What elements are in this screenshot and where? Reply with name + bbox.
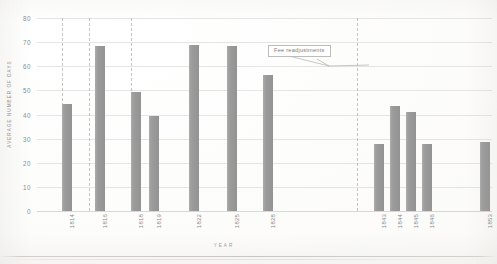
y-axis-title: AVERAGE NUMBER OF DAYS (7, 60, 12, 147)
x-axis-tick-label: 1816 (102, 214, 108, 228)
y-axis-tick-label: 60 (23, 63, 31, 70)
bar[interactable] (131, 92, 141, 211)
bar[interactable] (406, 112, 416, 211)
bar[interactable] (263, 75, 273, 211)
x-axis-tick-label: 1819 (156, 214, 162, 228)
y-axis-tick-label: 0 (27, 208, 31, 215)
page-edge-line (0, 256, 497, 257)
y-gridline (37, 211, 492, 212)
y-axis-tick-label: 70 (23, 39, 31, 46)
bar[interactable] (95, 46, 105, 211)
bar[interactable] (189, 45, 199, 212)
page-edge-line-secondary (0, 259, 497, 260)
x-axis-tick-label: 1844 (397, 214, 403, 228)
x-axis-tick-label: 1828 (270, 214, 276, 228)
chart-page: AVERAGE NUMBER OF DAYS YEAR 010203040506… (0, 0, 497, 264)
y-axis-tick-label: 50 (23, 87, 31, 94)
x-axis-tick-label: 1818 (138, 214, 144, 228)
y-axis-tick-label: 80 (23, 15, 31, 22)
x-axis-tick-label: 1853 (487, 214, 493, 228)
x-axis-tick-label: 1843 (381, 214, 387, 228)
bar[interactable] (227, 46, 237, 211)
x-axis-tick-label: 1822 (196, 214, 202, 228)
annotation-fee-readjustments: Fee readjustments (268, 45, 331, 57)
x-axis-tick-label: 1846 (429, 214, 435, 228)
x-axis-tick-label: 1845 (413, 214, 419, 228)
y-axis-tick-label: 40 (23, 111, 31, 118)
x-axis-title: YEAR (214, 243, 235, 248)
vertical-marker-line (89, 18, 90, 211)
y-axis-tick-label: 30 (23, 135, 31, 142)
bar[interactable] (422, 144, 432, 212)
y-gridline (37, 18, 492, 19)
y-axis-tick-label: 10 (23, 183, 31, 190)
bar[interactable] (390, 106, 400, 211)
y-axis-tick-label: 20 (23, 159, 31, 166)
bar[interactable] (149, 116, 159, 211)
bar[interactable] (62, 104, 72, 211)
bar[interactable] (480, 142, 490, 211)
bar[interactable] (374, 144, 384, 212)
x-axis-tick-label: 1825 (234, 214, 240, 228)
x-axis-tick-label: 1814 (69, 214, 75, 228)
